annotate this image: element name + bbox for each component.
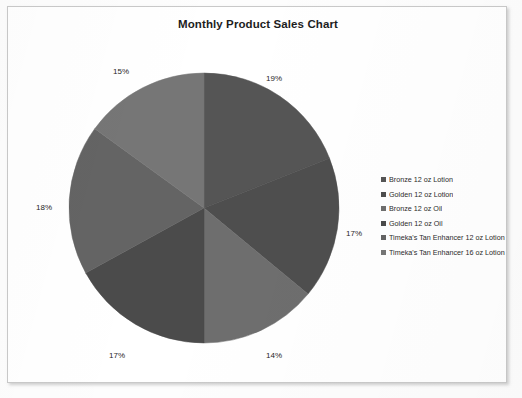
pie-label-slice-6: 15%	[113, 67, 129, 76]
pie-svg	[68, 72, 340, 344]
legend-swatch-icon	[381, 221, 386, 226]
legend-item[interactable]: Golden 12 oz Lotion	[381, 190, 507, 199]
legend-swatch-icon	[381, 192, 386, 197]
legend-item-label: Timeka's Tan Enhancer 12 oz Lotion	[389, 233, 505, 242]
legend-item[interactable]: Bronze 12 oz Oil	[381, 204, 507, 213]
legend-item-label: Bronze 12 oz Oil	[389, 204, 442, 213]
legend-swatch-icon	[381, 177, 386, 182]
pie-label-slice-4: 17%	[109, 351, 125, 360]
legend-item[interactable]: Bronze 12 oz Lotion	[381, 175, 507, 184]
pie-label-slice-5: 18%	[36, 203, 52, 212]
legend-swatch-icon	[381, 235, 386, 240]
legend-item-label: Golden 12 oz Oil	[389, 219, 443, 228]
plot-area: 19% 17% 14% 17% 18% 15% Bronze 12 oz Lot…	[8, 7, 508, 384]
legend-swatch-icon	[381, 206, 386, 211]
legend-swatch-icon	[381, 250, 386, 255]
legend: Bronze 12 oz LotionGolden 12 oz LotionBr…	[381, 175, 507, 262]
legend-item[interactable]: Golden 12 oz Oil	[381, 219, 507, 228]
chart-frame: Monthly Product Sales Chart 19% 17% 14% …	[7, 6, 507, 383]
legend-item-label: Timeka's Tan Enhancer 16 oz Lotion	[389, 248, 505, 257]
legend-item-label: Golden 12 oz Lotion	[389, 190, 453, 199]
legend-item[interactable]: Timeka's Tan Enhancer 12 oz Lotion	[381, 233, 507, 242]
legend-item-label: Bronze 12 oz Lotion	[389, 175, 453, 184]
pie-label-slice-3: 14%	[266, 351, 282, 360]
scanned-page: Monthly Product Sales Chart 19% 17% 14% …	[0, 0, 522, 398]
pie-label-slice-2: 17%	[346, 229, 362, 238]
legend-item[interactable]: Timeka's Tan Enhancer 16 oz Lotion	[381, 248, 507, 257]
pie-label-slice-1: 19%	[266, 74, 282, 83]
pie-slice-group	[69, 73, 339, 343]
pie-chart	[68, 72, 340, 344]
